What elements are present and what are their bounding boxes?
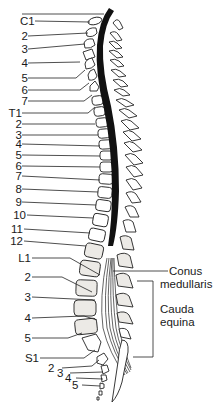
label-s4: 4	[65, 372, 72, 384]
conus-medullaris-label-line1: Conus	[169, 265, 202, 277]
label-t10: 10	[13, 209, 26, 221]
label-c5: 5	[22, 72, 28, 84]
label-s5: 5	[72, 379, 78, 391]
label-s1: S1	[25, 352, 39, 364]
label-t7: 7	[16, 170, 22, 182]
label-c4: 4	[22, 57, 29, 69]
label-t11: 11	[11, 223, 23, 235]
label-s2: 2	[48, 362, 54, 374]
label-t8: 8	[16, 183, 22, 195]
cauda-bracket	[133, 281, 153, 357]
label-c2: 2	[22, 30, 28, 42]
cauda-equina-label-line1: Cauda	[160, 303, 194, 315]
label-t12: 12	[10, 235, 23, 247]
label-c1: C1	[20, 15, 35, 27]
spine-diagram: C1 2 3 4 5 6 7 T1 2 3 4 5 6 7 8 9 10 11 …	[0, 0, 223, 403]
label-l5: 5	[25, 332, 31, 344]
label-c7: 7	[22, 95, 28, 107]
label-s3: 3	[57, 367, 63, 379]
label-l1: L1	[18, 252, 31, 264]
cauda-equina-label-line2: equina	[160, 316, 195, 328]
label-l4: 4	[25, 312, 32, 324]
label-t9: 9	[16, 196, 22, 208]
label-c3: 3	[22, 43, 28, 55]
conus-medullaris-label-line2: medullaris	[160, 278, 213, 290]
label-l3: 3	[25, 291, 31, 303]
label-l2: 2	[25, 271, 31, 283]
